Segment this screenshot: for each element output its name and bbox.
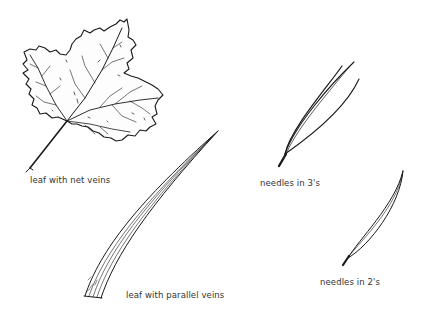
net-vein-leaf-illustration <box>23 19 163 172</box>
label-net-vein-leaf: leaf with net veins <box>30 175 110 185</box>
parallel-vein-leaf-illustration <box>84 131 218 298</box>
leaf-comparison-drawing <box>0 0 425 319</box>
label-needles-2: needles in 2's <box>320 277 380 287</box>
needles-2-illustration <box>343 171 403 265</box>
label-needles-3: needles in 3's <box>260 178 320 188</box>
label-parallel-vein-leaf: leaf with parallel veins <box>126 290 224 300</box>
needles-3-illustration <box>279 62 359 166</box>
